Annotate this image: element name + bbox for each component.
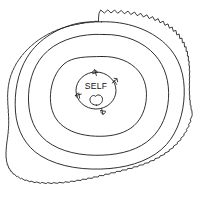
self-circle [76, 72, 116, 109]
contour-ring-4 [50, 56, 146, 136]
arrow-bottom-icon [100, 109, 105, 115]
arrow-top-icon [92, 70, 97, 76]
outer-boundary-ring [6, 10, 192, 184]
heart-blob-icon [90, 95, 103, 105]
diagram-canvas: SELF [0, 0, 201, 198]
concentric-contour-diagram: SELF [0, 0, 201, 198]
self-label: SELF [85, 81, 108, 91]
